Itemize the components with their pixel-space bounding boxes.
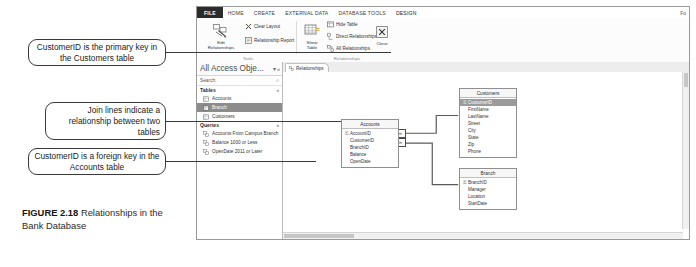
table-box-customers[interactable]: Customers ⚿ CustomerID FirstName LastNam… bbox=[459, 88, 517, 158]
hide-table-button[interactable]: Hide Table bbox=[327, 21, 358, 28]
primary-key-icon: ⚿ bbox=[344, 131, 349, 136]
field-row[interactable]: BranchID bbox=[342, 144, 398, 151]
show-table-icon bbox=[303, 22, 321, 39]
nav-item-branch[interactable]: Branch bbox=[197, 103, 282, 112]
table-box-branch[interactable]: Branch ⚿ BranchID Manager Location Start… bbox=[459, 168, 517, 210]
show-table-button[interactable]: ShowTable bbox=[299, 19, 325, 50]
table-box-fields: ⚿ CustomerID FirstName LastName Street C… bbox=[460, 98, 516, 157]
nav-item-balance-1000-or-less[interactable]: Balance 1000 or Less bbox=[197, 138, 282, 147]
field-row[interactable]: Location bbox=[460, 193, 516, 200]
field-row[interactable]: State bbox=[460, 134, 516, 141]
search-input[interactable]: Search. bbox=[200, 78, 276, 83]
field-row[interactable]: FirstName bbox=[460, 106, 516, 113]
tab-external-data[interactable]: EXTERNAL DATA bbox=[280, 7, 333, 18]
callout-join-lines: Join lines indicate a relationship betwe… bbox=[45, 102, 166, 140]
tab-file[interactable]: FILE bbox=[197, 7, 223, 18]
nav-item-label: Customers bbox=[212, 114, 235, 119]
ribbon-group-tools: EditRelationships Clear Layout bbox=[199, 18, 297, 62]
nav-item-label: Balance 1000 or Less bbox=[212, 140, 257, 145]
nav-item-accounts[interactable]: Accounts bbox=[197, 94, 282, 103]
field-row[interactable]: Zip bbox=[460, 141, 516, 148]
callout-primary-key: CustomerID is the primary key in the Cus… bbox=[28, 39, 166, 66]
clear-layout-button[interactable]: Clear Layout bbox=[245, 23, 280, 30]
table-box-fields: ⚿ AccountID CustomerID BranchID Balance … bbox=[342, 129, 398, 167]
table-box-accounts[interactable]: Accounts ⚿ AccountID CustomerID BranchID… bbox=[341, 119, 399, 168]
navigation-search-row[interactable]: Search. ⌕ bbox=[197, 76, 282, 86]
edit-relationships-label: EditRelationships bbox=[208, 40, 234, 50]
nav-item-opendate-2011-or-later[interactable]: OpenDate 2011 or Later bbox=[197, 147, 282, 156]
field-name: BranchID bbox=[468, 180, 487, 185]
relationship-report-label: Relationship Report bbox=[254, 38, 294, 43]
nav-group-tables-label: Tables bbox=[200, 87, 216, 93]
primary-key-icon: ⚿ bbox=[462, 100, 467, 105]
field-row[interactable]: LastName bbox=[460, 113, 516, 120]
nav-item-customers[interactable]: Customers bbox=[197, 112, 282, 121]
nav-item-accounts-from-campus-branch[interactable]: Accounts From Campus Branch bbox=[197, 129, 282, 138]
relationship-report-button[interactable]: Relationship Report bbox=[245, 37, 294, 44]
field-row[interactable]: ⚿ CustomerID bbox=[460, 99, 516, 106]
nav-group-queries[interactable]: Queries « bbox=[197, 121, 282, 129]
tab-home[interactable]: HOME bbox=[223, 7, 249, 18]
close-button[interactable]: Close bbox=[371, 20, 393, 46]
clear-layout-label: Clear Layout bbox=[254, 24, 280, 29]
field-row[interactable]: ⚿ AccountID bbox=[342, 130, 398, 137]
tab-create[interactable]: CREATE bbox=[249, 7, 280, 18]
document-tab-relationships[interactable]: Relationships bbox=[285, 63, 329, 72]
all-relationships-label: All Relationships bbox=[336, 46, 370, 51]
field-name: FirstName bbox=[468, 107, 489, 112]
field-name: BranchID bbox=[350, 145, 369, 150]
nav-group-tables-collapse-icon[interactable]: « bbox=[276, 88, 279, 93]
navigation-pane-header[interactable]: All Access Obje... ▾ « bbox=[197, 62, 282, 76]
callout-leader-line bbox=[166, 52, 391, 53]
nav-group-queries-collapse-icon[interactable]: « bbox=[276, 123, 279, 128]
search-icon[interactable]: ⌕ bbox=[276, 77, 279, 84]
table-box-title: Branch bbox=[460, 169, 516, 178]
tab-design[interactable]: DESIGN bbox=[391, 7, 422, 18]
field-name: OpenDate bbox=[350, 159, 371, 164]
field-row[interactable]: Street bbox=[460, 120, 516, 127]
field-row[interactable]: StartDate bbox=[460, 200, 516, 207]
ribbon-group-relationships-label: Relationships bbox=[299, 56, 395, 61]
field-row[interactable]: Phone bbox=[460, 148, 516, 155]
tab-database-tools[interactable]: DATABASE TOOLS bbox=[333, 7, 390, 18]
nav-group-tables[interactable]: Tables « bbox=[197, 86, 282, 94]
tabstrip-spacer bbox=[422, 7, 681, 18]
edit-relationships-button[interactable]: EditRelationships bbox=[201, 19, 241, 50]
field-row[interactable]: OpenDate bbox=[342, 158, 398, 165]
callout-text: CustomerID is a foreign key in the Accou… bbox=[34, 151, 160, 173]
ribbon-body: EditRelationships Clear Layout bbox=[197, 18, 689, 63]
edit-relationships-icon bbox=[212, 22, 230, 39]
field-row[interactable]: ⚿ BranchID bbox=[460, 179, 516, 186]
relationships-canvas[interactable]: ∞ ∞ Customers ⚿ CustomerID FirstName Las… bbox=[283, 72, 689, 239]
callout-text: Join lines indicate a relationship betwe… bbox=[51, 105, 160, 138]
clear-layout-icon bbox=[245, 23, 252, 30]
field-name: Zip bbox=[468, 142, 474, 147]
field-name: Balance bbox=[350, 152, 366, 157]
query-icon bbox=[203, 131, 209, 137]
ribbon-far-right-label: Fo bbox=[680, 7, 689, 18]
nav-item-label: OpenDate 2011 or Later bbox=[212, 149, 262, 154]
field-name: Location bbox=[468, 194, 485, 199]
nav-item-label: Accounts From Campus Branch bbox=[212, 131, 278, 136]
field-name: Street bbox=[468, 121, 480, 126]
nav-item-label: Accounts bbox=[212, 96, 231, 101]
nav-item-label: Branch bbox=[212, 105, 227, 110]
field-name: City bbox=[468, 128, 476, 133]
all-relationships-icon bbox=[327, 45, 334, 52]
ribbon-group-relationships: ShowTable Hide Table bbox=[299, 18, 395, 62]
field-name: State bbox=[468, 135, 479, 140]
field-name: AccountID bbox=[350, 131, 371, 136]
field-row[interactable]: CustomerID bbox=[342, 137, 398, 144]
close-icon bbox=[373, 23, 391, 40]
field-name: StartDate bbox=[468, 201, 487, 206]
show-table-label: ShowTable bbox=[307, 40, 318, 50]
query-icon bbox=[203, 140, 209, 146]
navigation-pane: All Access Obje... ▾ « Search. ⌕ Tables … bbox=[197, 62, 283, 239]
navigation-pane-collapse-icon[interactable]: « bbox=[276, 66, 280, 72]
field-row[interactable]: Manager bbox=[460, 186, 516, 193]
field-row[interactable]: Balance bbox=[342, 151, 398, 158]
all-relationships-button[interactable]: All Relationships bbox=[327, 45, 370, 52]
direct-relationships-button[interactable]: Direct Relationships bbox=[327, 33, 377, 40]
field-row[interactable]: City bbox=[460, 127, 516, 134]
ribbon-group-divider bbox=[296, 21, 297, 54]
